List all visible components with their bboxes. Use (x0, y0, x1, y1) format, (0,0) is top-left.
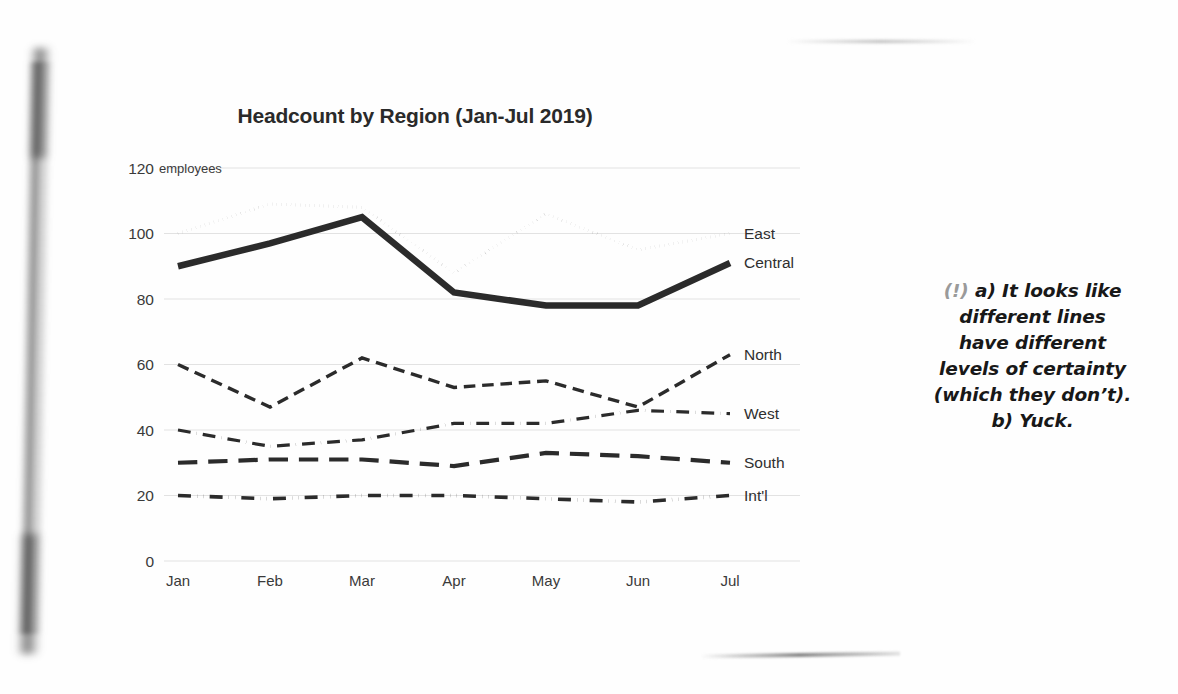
svg-text:West: West (744, 405, 780, 422)
svg-text:Apr: Apr (442, 572, 465, 589)
annotation-line: have different (905, 330, 1160, 356)
svg-text:Feb: Feb (257, 572, 283, 589)
handwritten-critique-annotation: (!) a) It looks likedifferent lineshave … (905, 278, 1160, 434)
annotation-line: b) Yuck. (905, 408, 1160, 434)
chart-plot-area: 020406080100120employees JanFebMarAprMay… (0, 0, 860, 694)
svg-text:Int'l: Int'l (744, 487, 768, 504)
svg-text:80: 80 (137, 291, 155, 308)
svg-text:Central: Central (744, 254, 794, 271)
svg-text:May: May (532, 572, 561, 589)
svg-text:North: North (744, 346, 782, 363)
svg-text:Jan: Jan (166, 572, 190, 589)
svg-text:Jul: Jul (720, 572, 739, 589)
svg-text:employees: employees (159, 161, 222, 176)
svg-text:40: 40 (137, 422, 155, 439)
svg-text:100: 100 (128, 225, 154, 242)
warning-bang-icon: (!) (944, 280, 975, 301)
annotation-line: different lines (905, 304, 1160, 330)
series-lines (178, 204, 730, 502)
x-axis-tick-labels: JanFebMarAprMayJunJul (166, 572, 740, 589)
svg-text:0: 0 (145, 553, 154, 570)
annotation-line: levels of certainty (905, 356, 1160, 382)
svg-text:20: 20 (137, 487, 155, 504)
svg-text:Mar: Mar (349, 572, 375, 589)
svg-text:60: 60 (137, 356, 155, 373)
svg-text:120: 120 (128, 160, 154, 177)
svg-text:East: East (744, 225, 776, 242)
svg-text:Jun: Jun (626, 572, 650, 589)
gridlines (164, 168, 800, 561)
svg-text:South: South (744, 454, 785, 471)
annotation-line: (!) a) It looks like (905, 278, 1160, 304)
annotation-line: (which they don’t). (905, 382, 1160, 408)
line-chart: Headcount by Region (Jan-Jul 2019) 02040… (0, 0, 860, 694)
